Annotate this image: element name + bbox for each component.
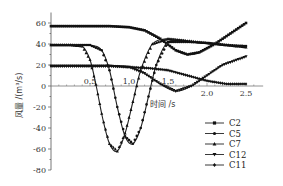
legend-label: C11 <box>229 160 246 170</box>
x-tick-label: 1.0 <box>123 77 136 86</box>
x-axis-title: 时间 /s <box>150 99 175 109</box>
x-tick-label: 2.0 <box>201 89 214 98</box>
legend: C2C5C7C12C11 <box>205 118 246 170</box>
legend-label: C7 <box>229 139 241 149</box>
y-axis-title: 风量 /(m³/s) <box>15 73 24 118</box>
legend-item-c5: C5 <box>205 129 241 139</box>
x-tick-label: 2.5 <box>240 89 253 98</box>
plot-series <box>49 22 247 153</box>
y-tick-label: -20 <box>33 103 46 112</box>
y-tick-label: -80 <box>33 166 46 175</box>
legend-label: C12 <box>229 150 246 160</box>
legend-item-c11: C11 <box>205 160 246 170</box>
y-tick-label: 20 <box>36 61 46 70</box>
y-tick-label: 40 <box>36 40 46 49</box>
y-tick-label: -60 <box>33 145 46 154</box>
legend-label: C5 <box>229 129 241 139</box>
series-c12 <box>49 55 247 93</box>
legend-item-c7: C7 <box>205 139 241 149</box>
legend-label: C2 <box>229 118 241 128</box>
series-c5 <box>50 40 248 145</box>
legend-item-c12: C12 <box>205 150 246 160</box>
line-chart: 6040200-20-40-60-800.51.01.52.02.5时间 /s风… <box>0 0 283 186</box>
y-tick-label: 60 <box>36 19 46 28</box>
legend-item-c2: C2 <box>205 118 241 128</box>
y-tick-label: -40 <box>33 124 46 133</box>
y-tick-label: 0 <box>41 82 46 91</box>
